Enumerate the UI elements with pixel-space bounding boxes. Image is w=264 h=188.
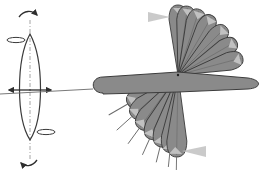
pivot-point (177, 74, 179, 76)
blade-fan-figure (0, 5, 259, 170)
main-horizontal-blade (0, 72, 259, 94)
rotation-arrow-top-icon (19, 11, 37, 17)
tail-line (168, 153, 170, 167)
center-point (29, 89, 31, 91)
diagram-canvas (0, 0, 264, 188)
tail-line (156, 147, 160, 163)
tail-line (142, 139, 149, 155)
tail-line (109, 104, 128, 115)
tail-line (117, 116, 132, 130)
loop-lower-right (37, 129, 55, 134)
rotation-arrow-bottom-icon (21, 160, 37, 166)
blade-shape (93, 72, 258, 94)
spindle-figure (7, 11, 55, 165)
triangle-marker-icon (148, 12, 170, 22)
loop-upper-left (7, 37, 25, 42)
tail-line (128, 128, 139, 143)
